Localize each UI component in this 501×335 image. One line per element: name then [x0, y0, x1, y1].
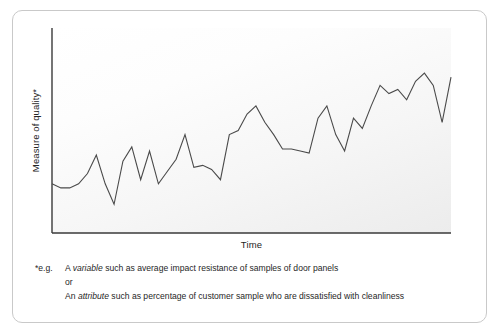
data-series-line — [52, 73, 451, 204]
footnote-line-3-post: such as percentage of customer sample wh… — [109, 291, 404, 301]
footnote-marker: *e.g. — [35, 261, 65, 275]
page-root: Measure of quality* Time *e.g.A variable… — [0, 0, 501, 335]
x-axis-title: Time — [52, 239, 451, 250]
footnote-line-1: *e.g.A variable such as average impact r… — [35, 261, 475, 275]
footnote-line-3-pre: An — [65, 291, 78, 301]
footnote-line-1-post: such as average impact resistance of sam… — [103, 263, 339, 273]
footnote-line-3-emphasis: attribute — [78, 291, 109, 301]
footnote-line-1-pre: A — [65, 263, 73, 273]
y-axis-title: Measure of quality* — [27, 28, 43, 233]
footnote-line-2: or — [35, 275, 475, 289]
footnote-line-2-text: or — [65, 277, 73, 287]
figure-card: Measure of quality* Time *e.g.A variable… — [12, 10, 487, 323]
footnote-block: *e.g.A variable such as average impact r… — [35, 261, 475, 303]
chart-figure: Measure of quality* Time *e.g.A variable… — [13, 11, 488, 324]
footnote-line-1-emphasis: variable — [73, 263, 103, 273]
footnote-line-3: An attribute such as percentage of custo… — [35, 289, 475, 303]
